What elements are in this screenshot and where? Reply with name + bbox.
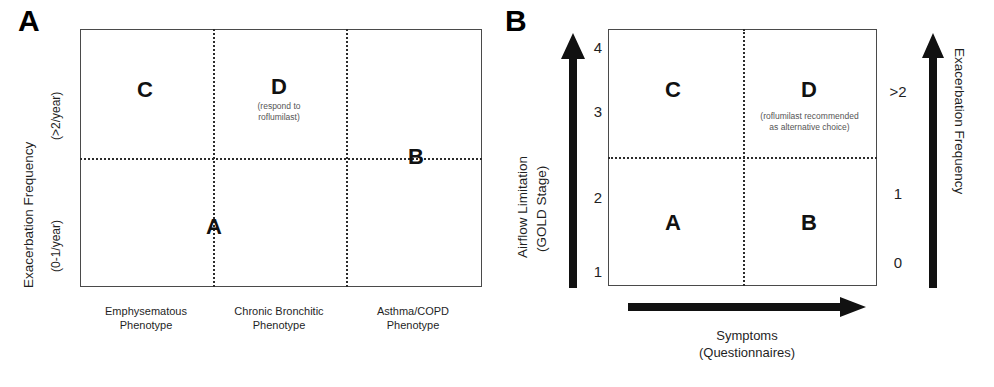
- panel-b-ytick-right-gt2: >2: [884, 84, 912, 99]
- panel-b-xaxis-title-line2: (Questionnaires): [627, 345, 867, 362]
- panel-b-divider-horizontal: [608, 157, 877, 159]
- panel-b-left-up-arrow-icon: [560, 33, 586, 288]
- panel-a-quadrant-a: A: [194, 216, 234, 238]
- panel-b-ytick-right-1: 1: [884, 186, 912, 201]
- panel-a-quadrant-d-note-line2: roflumilast): [229, 112, 329, 122]
- panel-b-ytick-left-3: 3: [589, 104, 607, 119]
- panel-b-quadrant-b: B: [789, 212, 829, 234]
- panel-b-letter: B: [505, 6, 527, 36]
- panel-a-xaxis-label-3-line2: Phenotype: [350, 319, 476, 333]
- panel-a-quadrant-d: D: [259, 76, 299, 98]
- panel-a-xaxis-label-1-line2: Phenotype: [83, 319, 209, 333]
- panel-a-yaxis-upper-label: (>2/year): [50, 92, 62, 140]
- panel-b-right-up-arrow-icon: [921, 33, 945, 288]
- panel-a-quadrant-b: B: [396, 146, 436, 168]
- panel-a-xaxis-label-2-line2: Phenotype: [215, 319, 343, 333]
- panel-b-yaxis-left-title-line2: (GOLD Stage): [535, 166, 549, 252]
- panel-b-quadrant-a: A: [653, 212, 693, 234]
- panel-a-xaxis-label-1-line1: Emphysematous: [83, 305, 209, 319]
- panel-b-yaxis-right-title: Exacerbation Frequency: [953, 48, 967, 194]
- panel-b-xaxis-title-line1: Symptoms: [627, 328, 867, 345]
- panel-a-xaxis-label-2-line1: Chronic Bronchitic: [215, 305, 343, 319]
- panel-b-ytick-right-0: 0: [884, 255, 912, 270]
- panel-b-bottom-right-arrow-icon: [628, 296, 866, 318]
- panel-b-yaxis-left-title-line1: Airflow Limitation: [516, 156, 530, 258]
- panel-a-quadrant-d-note-line1: (respond to: [229, 101, 329, 111]
- panel-b-ytick-left-1: 1: [589, 264, 607, 279]
- panel-b-quadrant-d-note-line1: (roflumilast recommended: [737, 111, 882, 121]
- panel-a-letter: A: [18, 6, 40, 36]
- panel-b-ytick-left-4: 4: [589, 40, 607, 55]
- panel-a-quadrant-c: C: [125, 79, 165, 101]
- figure-root: A Exacerbation Frequency (>2/year) (0-1/…: [0, 0, 994, 387]
- panel-b-ytick-left-2: 2: [589, 190, 607, 205]
- panel-a-xaxis-label-3-line1: Asthma/COPD: [350, 305, 476, 319]
- panel-b-quadrant-d: D: [789, 79, 829, 101]
- panel-a-yaxis-title: Exacerbation Frequency: [22, 142, 36, 288]
- panel-b-quadrant-d-note-line2: as alternative choice): [737, 122, 882, 132]
- panel-a-yaxis-lower-label: (0-1/year): [50, 220, 62, 272]
- panel-b-quadrant-c: C: [653, 79, 693, 101]
